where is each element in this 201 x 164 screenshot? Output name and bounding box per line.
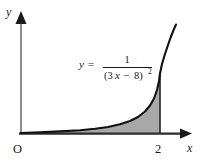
equation-denominator-open: (3 (104, 70, 113, 82)
x-axis-arrow-icon (180, 128, 192, 138)
equation-equals: = (88, 58, 94, 70)
function-plot-svg: y x O 2 y = 1 (3 x − 8) 2 (0, 0, 201, 164)
y-axis-label: y (5, 5, 12, 19)
equation-annotation: y = 1 (3 x − 8) 2 (78, 54, 152, 82)
equation-denominator-exponent: 2 (148, 67, 152, 76)
equation-denominator-variable: x (114, 69, 120, 81)
x-axis-label: x (186, 141, 193, 155)
y-axis-arrow-icon (16, 11, 27, 24)
origin-label: O (13, 142, 22, 156)
equation-denominator-minus: − (123, 69, 129, 81)
x-tick-label-2: 2 (155, 142, 161, 156)
equation-denominator-const: 8) (134, 70, 143, 82)
equation-lhs: y (78, 58, 84, 70)
equation-numerator: 1 (124, 54, 129, 65)
shaded-area-under-curve (21, 74, 160, 134)
graph-figure: y x O 2 y = 1 (3 x − 8) 2 (0, 0, 201, 164)
